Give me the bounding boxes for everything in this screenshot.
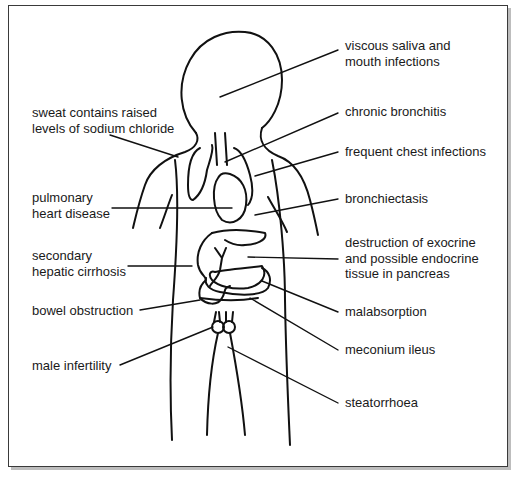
leader-meconium <box>250 298 338 350</box>
label-malabsorption: malabsorption <box>345 304 427 320</box>
lower-bowel <box>200 298 258 300</box>
label-frequent-chest-infections: frequent chest infections <box>345 144 486 160</box>
head-outline <box>181 32 282 133</box>
left-lung <box>188 145 213 200</box>
right-inner-arm <box>268 197 287 232</box>
label-steatorrhoea: steatorrhoea <box>345 395 418 411</box>
label-viscous-saliva: viscous saliva and mouth infections <box>345 38 451 69</box>
label-bowel-obstruction: bowel obstruction <box>32 303 133 319</box>
leader-bowel-obstruction <box>140 300 200 310</box>
pancreas-loop <box>210 266 264 289</box>
leader-lines <box>110 50 338 403</box>
leader-pancreas <box>248 257 338 259</box>
trachea-right <box>225 133 227 165</box>
label-secondary-hepatic-cirrhosis: secondary hepatic cirrhosis <box>32 248 126 279</box>
leader-chest-infections <box>255 152 338 176</box>
right-torso-side <box>272 160 290 445</box>
liver-top <box>212 230 265 245</box>
label-pulmonary-heart-disease: pulmonary heart disease <box>32 190 110 221</box>
left-inner-leg <box>207 333 218 435</box>
leader-malabsorption <box>262 281 338 312</box>
trachea-left <box>215 133 217 165</box>
left-inner-arm <box>160 195 172 228</box>
label-sweat: sweat contains raised levels of sodium c… <box>32 105 174 136</box>
leader-male-infertility <box>120 327 213 365</box>
label-bronchiectasis: bronchiectasis <box>345 191 428 207</box>
leader-bronchitis <box>225 113 338 162</box>
leader-steatorrhoea <box>228 347 338 403</box>
leader-saliva <box>220 50 338 97</box>
heart <box>214 173 246 222</box>
label-meconium-ileus: meconium ileus <box>345 342 435 358</box>
label-pancreas-destruction: destruction of exocrine and possible end… <box>345 235 479 282</box>
right-inner-leg <box>230 333 245 435</box>
leader-sweat <box>110 135 178 157</box>
right-neck-shoulder-arm <box>261 128 318 235</box>
leader-bronchiectasis <box>255 199 338 215</box>
left-torso-side <box>171 160 178 440</box>
label-male-infertility: male infertility <box>32 358 111 374</box>
label-chronic-bronchitis: chronic bronchitis <box>345 104 446 120</box>
